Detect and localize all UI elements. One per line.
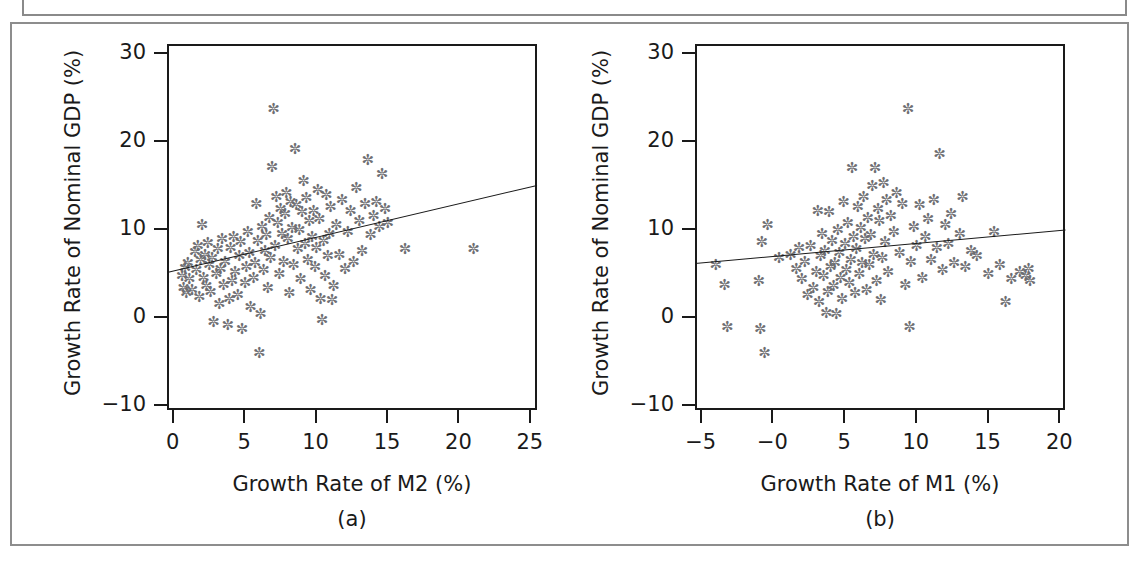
x-tick-b-5 bbox=[1058, 410, 1060, 423]
x-tick-b-1 bbox=[771, 410, 773, 423]
y-tick-b-3 bbox=[682, 140, 695, 142]
data-point: ✼ bbox=[903, 320, 914, 331]
data-point: ✼ bbox=[982, 267, 993, 278]
data-point: ✼ bbox=[887, 225, 898, 236]
x-tick-b-4 bbox=[987, 410, 989, 423]
data-point: ✼ bbox=[846, 161, 857, 172]
y-tick-b-1 bbox=[682, 316, 695, 318]
data-point: ✼ bbox=[913, 198, 924, 209]
data-point: ✼ bbox=[885, 209, 896, 220]
data-point: ✼ bbox=[875, 293, 886, 304]
data-point: ✼ bbox=[849, 286, 860, 297]
data-point: ✼ bbox=[877, 176, 888, 187]
panel-caption-b: (b) bbox=[655, 507, 1105, 531]
x-tick-label-b-0: −5 bbox=[661, 432, 741, 453]
y-axis-title-b: Growth Rate of Nominal GDP (%) bbox=[589, 50, 613, 396]
data-point: ✼ bbox=[928, 193, 939, 204]
data-point: ✼ bbox=[755, 235, 766, 246]
data-point: ✼ bbox=[796, 272, 807, 283]
data-point: ✼ bbox=[899, 278, 910, 289]
data-point: ✼ bbox=[902, 102, 913, 113]
data-point: ✼ bbox=[959, 260, 970, 271]
chart-panel-b: −100102030−5−05101520✼✼✼✼✼✼✼✼✼✼✼✼✼✼✼✼✼✼✼… bbox=[0, 0, 1147, 563]
data-point: ✼ bbox=[905, 255, 916, 266]
data-point: ✼ bbox=[896, 197, 907, 208]
x-tick-label-b-3: 10 bbox=[876, 432, 956, 453]
y-tick-b-4 bbox=[682, 52, 695, 54]
data-point: ✼ bbox=[893, 246, 904, 257]
data-point: ✼ bbox=[907, 220, 918, 231]
data-point: ✼ bbox=[876, 251, 887, 262]
data-point: ✼ bbox=[945, 207, 956, 218]
data-point: ✼ bbox=[830, 307, 841, 318]
x-axis-title-b: Growth Rate of M1 (%) bbox=[655, 472, 1105, 496]
data-point: ✼ bbox=[936, 263, 947, 274]
data-point: ✼ bbox=[793, 241, 804, 252]
data-point: ✼ bbox=[933, 147, 944, 158]
y-tick-label-b-0: −10 bbox=[595, 394, 674, 415]
x-tick-b-3 bbox=[915, 410, 917, 423]
data-point: ✼ bbox=[758, 346, 769, 357]
data-point: ✼ bbox=[999, 295, 1010, 306]
data-point: ✼ bbox=[948, 256, 959, 267]
data-point: ✼ bbox=[942, 237, 953, 248]
x-tick-label-b-2: 5 bbox=[804, 432, 884, 453]
data-point: ✼ bbox=[870, 274, 881, 285]
data-point: ✼ bbox=[761, 218, 772, 229]
data-point: ✼ bbox=[842, 216, 853, 227]
x-tick-b-0 bbox=[700, 410, 702, 423]
data-point: ✼ bbox=[811, 204, 822, 215]
data-point: ✼ bbox=[882, 265, 893, 276]
x-tick-label-b-5: 20 bbox=[1019, 432, 1099, 453]
x-tick-label-b-1: −0 bbox=[732, 432, 812, 453]
data-point: ✼ bbox=[1024, 274, 1035, 285]
data-point: ✼ bbox=[836, 292, 847, 303]
data-point: ✼ bbox=[956, 190, 967, 201]
data-point: ✼ bbox=[753, 274, 764, 285]
x-tick-label-b-4: 15 bbox=[948, 432, 1028, 453]
data-point: ✼ bbox=[837, 195, 848, 206]
data-point: ✼ bbox=[971, 249, 982, 260]
data-point: ✼ bbox=[922, 212, 933, 223]
data-point: ✼ bbox=[866, 179, 877, 190]
data-point: ✼ bbox=[718, 278, 729, 289]
data-point: ✼ bbox=[798, 255, 809, 266]
data-point: ✼ bbox=[919, 230, 930, 241]
y-tick-b-2 bbox=[682, 228, 695, 230]
y-tick-b-0 bbox=[682, 404, 695, 406]
data-point: ✼ bbox=[994, 258, 1005, 269]
data-point: ✼ bbox=[823, 205, 834, 216]
data-point: ✼ bbox=[953, 227, 964, 238]
data-point: ✼ bbox=[916, 271, 927, 282]
data-point: ✼ bbox=[988, 225, 999, 236]
data-point: ✼ bbox=[873, 214, 884, 225]
x-tick-b-2 bbox=[843, 410, 845, 423]
data-point: ✼ bbox=[869, 161, 880, 172]
data-point: ✼ bbox=[754, 322, 765, 333]
data-point: ✼ bbox=[721, 320, 732, 331]
